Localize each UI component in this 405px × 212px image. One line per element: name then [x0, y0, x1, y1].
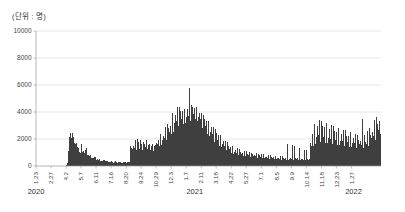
x-tick-label: 9.9	[288, 171, 295, 180]
x-tick-label: 6.11	[92, 171, 99, 183]
y-tick-label: 10000	[13, 27, 31, 34]
x-tick-label: 8.20	[122, 171, 129, 184]
x-tick-label: 1.7	[182, 171, 189, 180]
x-tick-label: 5.7	[77, 171, 84, 180]
unit-label: (단위 : 명)	[12, 10, 46, 21]
x-tick-label: 10.29	[152, 171, 159, 187]
year-label: 2021	[186, 187, 203, 196]
x-axis-tick-labels: 1.232.274.25.76.117.168.209.2410.2912.31…	[32, 166, 354, 187]
y-tick-label: 4000	[17, 108, 32, 115]
year-labels: 202020212022	[28, 187, 362, 196]
y-tick-label: 8000	[17, 54, 32, 61]
x-tick-label: 1.23	[32, 171, 39, 184]
covid-daily-cases-bar-chart: 0200040006000800010000 1.232.274.25.76.1…	[0, 0, 405, 212]
y-tick-label: 0	[28, 162, 32, 169]
x-tick-label: 7.16	[107, 171, 114, 184]
x-tick-label: 10.14	[303, 171, 310, 187]
y-tick-label: 6000	[17, 81, 32, 88]
x-tick-label: 12.23	[333, 171, 340, 187]
bar-series	[66, 42, 381, 166]
x-tick-label: 2.27	[47, 171, 54, 184]
x-tick-label: 1.27	[348, 171, 355, 184]
x-tick-label: 4.22	[227, 171, 234, 184]
chart-container: (단위 : 명) 0200040006000800010000 1.232.27…	[0, 0, 405, 212]
x-tick-label: 3.18	[212, 171, 219, 184]
y-axis-tick-labels: 0200040006000800010000	[13, 27, 36, 169]
x-tick-label: 9.24	[137, 171, 144, 184]
y-tick-label: 2000	[17, 135, 32, 142]
x-tick-label: 2.11	[197, 171, 204, 183]
x-tick-label: 4.2	[62, 171, 69, 180]
x-tick-label: 5.27	[242, 171, 249, 184]
x-tick-label: 8.5	[273, 171, 280, 180]
year-label: 2020	[28, 187, 45, 196]
x-tick-label: 12.3	[167, 171, 174, 184]
x-tick-label: 11.18	[318, 171, 325, 187]
year-label: 2022	[345, 187, 362, 196]
x-tick-label: 7.1	[257, 171, 264, 180]
